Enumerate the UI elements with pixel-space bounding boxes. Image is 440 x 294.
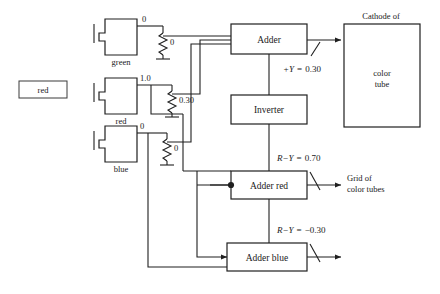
label-red-minus-y-value: 0.70 <box>305 153 321 163</box>
photocell-red-body <box>99 78 137 114</box>
wire-into-adder-blue <box>197 186 227 257</box>
block-adder-red-label: Adder red <box>250 181 288 191</box>
photocell-blue-label: blue <box>114 164 129 174</box>
label-luminance-equals: = <box>297 64 302 74</box>
photocell-blue-output-value: 0 <box>140 121 144 131</box>
grid-output-line2: color tubes <box>347 184 385 194</box>
block-inverter-label: Inverter <box>254 105 285 115</box>
tick-luminance <box>311 42 320 56</box>
resistor-green-value: 0 <box>170 37 174 47</box>
label-red-minus-y: R−Y=0.70 <box>276 153 321 163</box>
label-luminance-expr: +Y <box>283 64 295 74</box>
legend-swatch: red <box>19 81 67 98</box>
cathode-inner-line2: tube <box>375 79 390 89</box>
photocell-blue-body <box>99 126 137 162</box>
tick-red-minus-y <box>310 172 320 190</box>
resistor-blue-value: 0 <box>174 143 178 153</box>
block-adder: Adder <box>231 24 307 54</box>
cathode-inner-line1: color <box>373 68 391 78</box>
figure-canvas: red green 0 0 red 1 <box>0 0 440 294</box>
wire-blue-to-adder <box>167 44 231 142</box>
photocell-green-label: green <box>112 57 132 67</box>
output-cathode-box: Cathode of color tube <box>344 11 420 127</box>
photocell-green-output-value: 0 <box>142 14 146 24</box>
label-luminance-value: 0.30 <box>305 64 321 74</box>
label-blue-minus-y-value: −0.30 <box>305 225 326 235</box>
label-red-minus-y-equals: = <box>297 153 302 163</box>
cathode-caption: Cathode of <box>362 11 400 21</box>
block-adder-blue-label: Adder blue <box>246 253 288 263</box>
block-adder-label: Adder <box>257 35 282 45</box>
label-blue-minus-y-equals: = <box>297 225 302 235</box>
photocell-red-output-value: 1.0 <box>140 73 151 83</box>
tick-blue-minus-y <box>310 244 320 262</box>
grid-output-line1: Grid of <box>347 173 372 183</box>
legend-swatch-label: red <box>38 85 50 95</box>
label-red-minus-y-expr: R−Y <box>276 153 295 163</box>
wire-blue-branch-down <box>148 133 227 267</box>
label-luminance: +Y=0.30 <box>283 64 321 74</box>
label-blue-minus-y-expr: R−Y <box>276 225 295 235</box>
wire-red-to-adder <box>172 40 231 94</box>
photocell-green-body <box>99 19 137 55</box>
resistor-red-value: 0.30 <box>179 95 194 105</box>
circuit-diagram: red green 0 0 red 1 <box>0 0 440 294</box>
label-blue-minus-y: R−Y=−0.30 <box>276 225 326 235</box>
photocell-red-label: red <box>116 116 128 126</box>
